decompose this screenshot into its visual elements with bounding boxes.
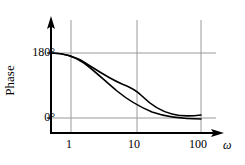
y-tick-label-180: 180° bbox=[32, 46, 55, 58]
x-tick-label-1: 1 bbox=[66, 138, 72, 150]
phase-bode-plot-figure: 180° 0° 1 10 100 ω Phase bbox=[0, 0, 245, 165]
y-axis-label: Phase bbox=[3, 55, 16, 107]
x-axis-label: ω bbox=[223, 139, 231, 151]
y-tick-label-0: 0° bbox=[44, 111, 55, 123]
x-tick-label-10: 10 bbox=[128, 138, 140, 150]
data-curves bbox=[51, 53, 201, 119]
plot-canvas bbox=[0, 0, 245, 165]
curve-asymptotic-phase bbox=[51, 53, 201, 116]
x-tick-label-100: 100 bbox=[189, 138, 207, 150]
